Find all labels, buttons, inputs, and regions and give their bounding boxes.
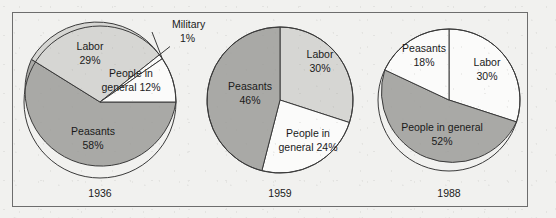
label-1959-labor-pct: 30% [309, 62, 330, 74]
year-label-1936: 1936 [88, 187, 112, 199]
label-1988-peasants-name: Peasants [402, 42, 446, 54]
label-1959-peasants-pct: 46% [239, 94, 260, 106]
label-1988-labor-pct: 30% [476, 70, 497, 82]
pie-chart-1936: Labor 29% Military 1% People in general … [24, 18, 206, 199]
label-1936-people-line1: People in [109, 67, 153, 79]
military-leader-line-upper [159, 47, 170, 55]
label-1936-military-name: Military [172, 18, 206, 30]
label-1936-labor-name: Labor [77, 40, 104, 52]
pie-chart-1959: Labor 30% Peasants 46% People in general… [207, 27, 353, 199]
label-1959-labor-name: Labor [307, 48, 334, 60]
label-1988-labor-name: Labor [474, 56, 501, 68]
label-1988-people-name: People in general [401, 121, 483, 133]
label-1988-peasants-pct: 18% [413, 56, 434, 68]
label-1936-military-pct: 1% [180, 32, 195, 44]
label-1988-people-pct: 52% [431, 135, 452, 147]
label-1959-people-line2: general 24% [279, 141, 338, 153]
year-label-1959: 1959 [268, 187, 292, 199]
pie-chart-figure: Labor 29% Military 1% People in general … [0, 0, 556, 218]
pie-charts-svg: Labor 29% Military 1% People in general … [0, 0, 556, 218]
label-1936-people-line2: general 12% [102, 81, 161, 93]
label-1959-people-line1: People in [286, 127, 330, 139]
pie-chart-1988: Peasants 18% Labor 30% People in general… [378, 29, 520, 199]
label-1936-peasants-pct: 58% [82, 139, 103, 151]
year-label-1988: 1988 [437, 187, 461, 199]
label-1936-labor-pct: 29% [79, 54, 100, 66]
label-1959-peasants-name: Peasants [228, 80, 272, 92]
label-1936-peasants-name: Peasants [71, 125, 115, 137]
